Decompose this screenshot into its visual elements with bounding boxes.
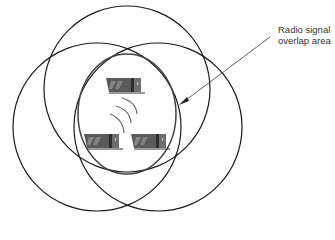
- overlap-area: [78, 54, 176, 174]
- coverage-circle-left: [13, 43, 181, 211]
- pointer-arrow: [179, 37, 270, 105]
- laptop-icon: [106, 78, 145, 93]
- laptop-icon: [131, 134, 170, 149]
- label-line-1: Radio signal: [278, 24, 331, 35]
- label-line-2: overlap area: [278, 35, 331, 46]
- radio-waves-icon: [110, 98, 137, 133]
- overlap-area-label: Radio signal overlap area: [278, 24, 331, 46]
- laptop-icon: [84, 134, 123, 149]
